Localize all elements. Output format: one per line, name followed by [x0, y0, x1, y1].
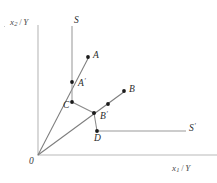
- label-d: D: [94, 134, 101, 144]
- x-axis-label: x1/Y: [172, 164, 191, 174]
- point-c: [70, 100, 74, 104]
- y-axis-label: x2/Y: [10, 18, 29, 28]
- isoquant-segment-c-bprime: [72, 102, 94, 113]
- x-axis-label-den: Y: [185, 163, 190, 173]
- y-axis-label-den: Y: [23, 17, 28, 27]
- label-s-prime-mark: ′: [194, 122, 196, 131]
- isoquant-segment-bprime-d: [94, 113, 97, 131]
- label-b-prime: B′: [100, 111, 108, 122]
- point-a: [86, 55, 90, 59]
- ray-ob: [38, 92, 125, 156]
- point-b: [122, 89, 126, 93]
- point-ob-midpoint: [106, 102, 110, 106]
- point-a-prime: [70, 80, 74, 84]
- label-s: S: [74, 16, 79, 26]
- label-b: B: [129, 85, 135, 95]
- label-a-prime-mark: ′: [84, 77, 86, 86]
- label-c: C: [63, 101, 70, 111]
- label-s-prime: S′: [189, 123, 196, 134]
- label-a-prime: A′: [78, 78, 86, 89]
- scan-speck: [4, 26, 5, 27]
- point-b-prime: [92, 111, 96, 115]
- label-a: A: [93, 51, 99, 61]
- origin-label: 0: [29, 157, 34, 167]
- label-b-prime-mark: ′: [106, 110, 108, 119]
- figure-container: x2/Y x1/Y 0 S S′ A A′ B B′ C D: [0, 0, 217, 183]
